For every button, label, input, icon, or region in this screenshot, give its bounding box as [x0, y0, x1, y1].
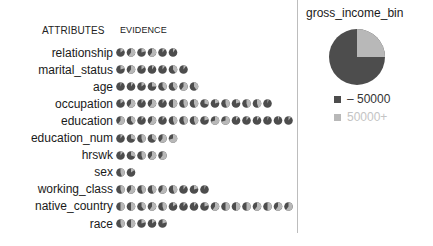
attribute-row-occupation[interactable]: occupation	[0, 95, 116, 112]
evidence-pie[interactable]	[137, 202, 146, 211]
evidence-pie[interactable]	[274, 202, 283, 211]
evidence-pie[interactable]	[148, 151, 157, 160]
evidence-pie[interactable]	[158, 202, 167, 211]
attribute-row-sex[interactable]: sex	[0, 164, 116, 181]
attribute-row-working-class[interactable]: working_class	[0, 181, 116, 198]
evidence-pie[interactable]	[158, 82, 167, 91]
attribute-row-race[interactable]: race	[0, 215, 116, 232]
evidence-pie[interactable]	[179, 82, 188, 91]
evidence-pie[interactable]	[284, 117, 293, 126]
evidence-pie[interactable]	[127, 168, 136, 177]
evidence-pie[interactable]	[253, 99, 262, 108]
evidence-pie[interactable]	[127, 82, 136, 91]
evidence-pie[interactable]	[179, 65, 188, 74]
evidence-pie[interactable]	[148, 117, 157, 126]
evidence-pie[interactable]	[253, 117, 262, 126]
evidence-pie[interactable]	[148, 48, 157, 57]
attribute-label[interactable]: education_num	[0, 131, 116, 145]
evidence-pie[interactable]	[211, 99, 220, 108]
evidence-pie[interactable]	[169, 65, 178, 74]
attribute-label[interactable]: age	[0, 80, 116, 94]
evidence-pie[interactable]	[190, 82, 199, 91]
evidence-pie[interactable]	[148, 134, 157, 143]
evidence-pie[interactable]	[158, 134, 167, 143]
evidence-pie[interactable]	[158, 151, 167, 160]
evidence-pie[interactable]	[263, 117, 272, 126]
evidence-pie[interactable]	[137, 48, 146, 57]
evidence-pie[interactable]	[232, 117, 241, 126]
attribute-row-hrswk[interactable]: hrswk	[0, 147, 116, 164]
attribute-label[interactable]: relationship	[0, 46, 116, 60]
evidence-pie[interactable]	[179, 202, 188, 211]
attribute-row-education[interactable]: education	[0, 112, 116, 129]
evidence-pie[interactable]	[148, 82, 157, 91]
evidence-pie[interactable]	[179, 99, 188, 108]
evidence-pie[interactable]	[116, 202, 125, 211]
evidence-pie[interactable]	[169, 48, 178, 57]
evidence-pie[interactable]	[137, 151, 146, 160]
evidence-pie[interactable]	[284, 202, 293, 211]
evidence-pie[interactable]	[127, 134, 136, 143]
evidence-pie[interactable]	[137, 219, 146, 228]
evidence-pie[interactable]	[116, 82, 125, 91]
attribute-row-age[interactable]: age	[0, 78, 116, 95]
evidence-pie[interactable]	[179, 117, 188, 126]
evidence-pie[interactable]	[232, 99, 241, 108]
evidence-pie[interactable]	[221, 117, 230, 126]
evidence-pie[interactable]	[158, 117, 167, 126]
legend-item-high[interactable]: 50000+	[334, 110, 387, 124]
evidence-pie[interactable]	[137, 185, 146, 194]
evidence-pie[interactable]	[169, 82, 178, 91]
evidence-pie[interactable]	[127, 65, 136, 74]
evidence-pie[interactable]	[116, 168, 125, 177]
attribute-row-education-num[interactable]: education_num	[0, 130, 116, 147]
evidence-pie[interactable]	[158, 185, 167, 194]
evidence-pie[interactable]	[190, 117, 199, 126]
attribute-label[interactable]: occupation	[0, 97, 116, 111]
evidence-pie[interactable]	[211, 117, 220, 126]
evidence-pie[interactable]	[116, 117, 125, 126]
evidence-pie[interactable]	[116, 65, 125, 74]
attribute-label[interactable]: race	[0, 217, 116, 231]
evidence-pie[interactable]	[148, 65, 157, 74]
attribute-label[interactable]: native_country	[0, 199, 116, 213]
evidence-pie[interactable]	[148, 99, 157, 108]
evidence-pie[interactable]	[221, 202, 230, 211]
evidence-pie[interactable]	[148, 202, 157, 211]
evidence-pie[interactable]	[190, 202, 199, 211]
evidence-pie[interactable]	[200, 185, 209, 194]
evidence-pie[interactable]	[137, 99, 146, 108]
evidence-pie[interactable]	[190, 99, 199, 108]
evidence-pie[interactable]	[253, 202, 262, 211]
evidence-pie[interactable]	[158, 65, 167, 74]
evidence-pie[interactable]	[169, 185, 178, 194]
attribute-label[interactable]: working_class	[0, 182, 116, 196]
evidence-pie[interactable]	[169, 99, 178, 108]
evidence-pie[interactable]	[169, 134, 178, 143]
attribute-row-native-country[interactable]: native_country	[0, 198, 116, 215]
overall-pie[interactable]	[329, 29, 385, 85]
evidence-pie[interactable]	[221, 99, 230, 108]
attribute-row-marital-status[interactable]: marital_status	[0, 61, 116, 78]
evidence-pie[interactable]	[179, 185, 188, 194]
evidence-pie[interactable]	[116, 219, 125, 228]
evidence-pie[interactable]	[127, 202, 136, 211]
evidence-pie[interactable]	[137, 117, 146, 126]
evidence-pie[interactable]	[158, 99, 167, 108]
evidence-pie[interactable]	[127, 151, 136, 160]
evidence-pie[interactable]	[200, 202, 209, 211]
evidence-pie[interactable]	[274, 117, 283, 126]
evidence-pie[interactable]	[137, 65, 146, 74]
legend-item-low[interactable]: – 50000	[334, 92, 390, 106]
evidence-pie[interactable]	[127, 117, 136, 126]
evidence-pie[interactable]	[200, 117, 209, 126]
evidence-pie[interactable]	[116, 48, 125, 57]
evidence-pie[interactable]	[200, 99, 209, 108]
evidence-pie[interactable]	[127, 219, 136, 228]
evidence-pie[interactable]	[148, 185, 157, 194]
attribute-label[interactable]: sex	[0, 165, 116, 179]
attribute-label[interactable]: marital_status	[0, 63, 116, 77]
evidence-pie[interactable]	[127, 48, 136, 57]
attribute-label[interactable]: hrswk	[0, 148, 116, 162]
evidence-pie[interactable]	[242, 99, 251, 108]
